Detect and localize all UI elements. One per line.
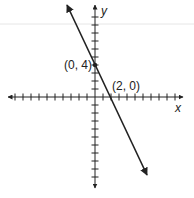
y-axis-label: y	[100, 4, 108, 18]
x-axis-label: x	[174, 101, 182, 115]
coordinate-plane: y x (0, 4) (2, 0)	[0, 0, 194, 198]
y-intercept-label: (0, 4)	[64, 58, 92, 72]
y-intercept-point	[93, 63, 97, 67]
x-intercept-label: (2, 0)	[112, 79, 140, 93]
